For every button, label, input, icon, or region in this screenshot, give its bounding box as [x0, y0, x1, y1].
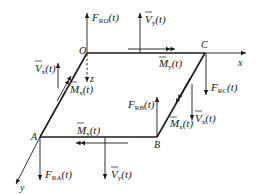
force-RB-label: FRB(t) [127, 98, 155, 112]
point-C-label: C [201, 39, 208, 50]
plate-force-diagram: x y z O C A B FRO(t) Vy(t) My(t) FRC(t) … [0, 0, 258, 194]
shear-Vy-top-label: Vy(t) [145, 13, 166, 27]
force-RC-label: FRC(t) [210, 81, 238, 95]
moment-My-bottom-label: My(t) [76, 124, 100, 138]
moment-Mx-left-arrow-icon [57, 76, 71, 101]
shear-Vx-left-label: Vx(t) [35, 62, 56, 76]
y-axis-label: y [19, 182, 25, 193]
moment-Mx-right-label: Mx(t) [169, 117, 193, 131]
point-B-label: B [154, 139, 160, 150]
moment-Mx-right-arrow-icon [176, 78, 190, 103]
moment-Mx-left-label: Mx(t) [69, 83, 93, 97]
force-RO-label: FRO(t) [91, 11, 119, 25]
point-O-label: O [79, 45, 86, 56]
shear-Vy-bottom-label: Vy(t) [111, 168, 132, 182]
x-axis-label: x [237, 57, 243, 68]
y-axis-arrow [16, 137, 40, 184]
moment-My-top-label: My(t) [158, 57, 182, 71]
force-RA-label: FRA(t) [44, 168, 72, 182]
point-A-label: A [30, 131, 38, 142]
shear-Vx-right-label: Vx(t) [195, 112, 216, 126]
